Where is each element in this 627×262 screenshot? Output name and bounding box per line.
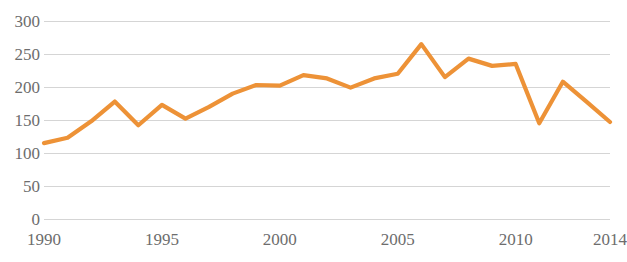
x-tick-label: 2000: [263, 231, 297, 248]
x-tick-label: 1990: [27, 231, 61, 248]
x-tick-label: 2005: [381, 231, 415, 248]
x-tick-label: 1995: [145, 231, 179, 248]
x-tick-label: 2014: [593, 231, 627, 248]
x-tick-label: 2010: [499, 231, 533, 248]
